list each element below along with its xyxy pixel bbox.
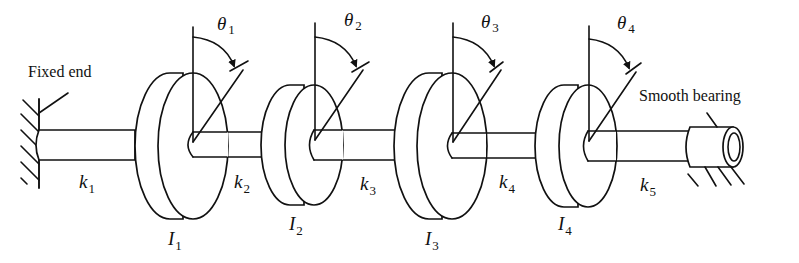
shaft-k1 [36, 130, 135, 160]
theta-2-label: θ2 [344, 9, 362, 33]
disk-I2 [261, 23, 369, 205]
smooth-bearing-label: Smooth bearing [639, 87, 741, 105]
k2-label: k2 [234, 171, 250, 196]
theta-4-label: θ4 [617, 12, 635, 36]
fixed-end-label: Fixed end [28, 63, 92, 80]
theta-3-label: θ3 [481, 11, 499, 35]
k1-label: k1 [79, 171, 95, 196]
disk-I1 [135, 27, 248, 219]
torsional-system-diagram: Fixed end [0, 0, 799, 263]
k3-label: k3 [360, 173, 376, 198]
I3-label: I3 [424, 228, 439, 253]
I4-label: I4 [557, 213, 572, 238]
disk-I3 [394, 23, 503, 219]
theta-1-label: θ1 [217, 13, 235, 37]
disk-I4 [535, 26, 641, 207]
I1-label: I1 [167, 228, 182, 253]
k4-label: k4 [499, 171, 515, 196]
I2-label: I2 [288, 213, 303, 238]
smooth-bearing [686, 113, 744, 186]
k5-label: k5 [640, 174, 656, 199]
